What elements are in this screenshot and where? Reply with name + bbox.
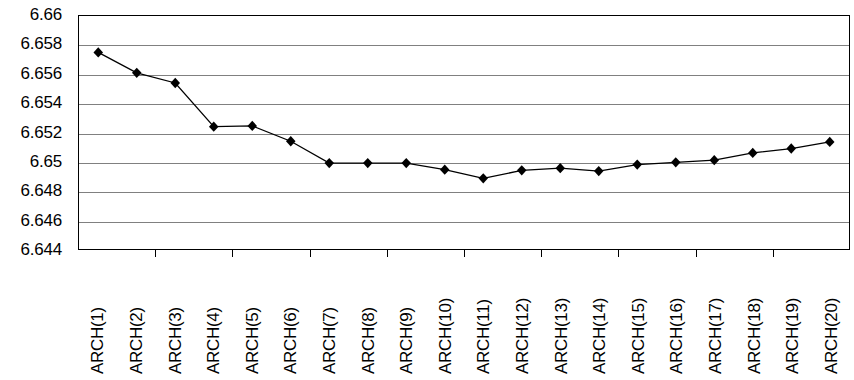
data-point-marker bbox=[748, 148, 758, 158]
x-axis-category-label: ARCH(5) bbox=[244, 262, 262, 374]
x-axis-category-label: ARCH(9) bbox=[398, 262, 416, 374]
data-point-marker bbox=[132, 68, 142, 78]
data-point-marker bbox=[594, 166, 604, 176]
data-point-marker bbox=[555, 163, 565, 173]
x-axis-tick-mark bbox=[773, 250, 774, 257]
x-axis-category-label: ARCH(16) bbox=[668, 262, 686, 374]
x-axis-category-label: ARCH(17) bbox=[707, 262, 725, 374]
data-point-marker bbox=[478, 173, 488, 183]
x-axis-tick-mark bbox=[618, 250, 619, 257]
y-axis-tick-label: 6.646 bbox=[0, 212, 62, 229]
y-axis-tick-label: 6.654 bbox=[0, 94, 62, 111]
data-point-marker bbox=[324, 158, 334, 168]
data-point-marker bbox=[401, 158, 411, 168]
x-axis-tick-mark bbox=[464, 250, 465, 257]
data-point-marker bbox=[440, 164, 450, 174]
x-axis-category-label: ARCH(15) bbox=[630, 262, 648, 374]
y-axis-tick-label: 6.66 bbox=[0, 6, 62, 23]
y-axis-tick-label: 6.648 bbox=[0, 182, 62, 199]
y-axis-tick-label: 6.644 bbox=[0, 241, 62, 258]
x-axis-category-label: ARCH(7) bbox=[321, 262, 339, 374]
x-axis-category-label: ARCH(13) bbox=[553, 262, 571, 374]
x-axis-category-label: ARCH(2) bbox=[128, 262, 146, 374]
x-axis-category-label: ARCH(20) bbox=[823, 262, 841, 374]
line-chart: 6.666.6586.6566.6546.6526.656.6486.6466.… bbox=[0, 0, 854, 380]
x-axis-tick-mark bbox=[541, 250, 542, 257]
data-point-marker bbox=[786, 143, 796, 153]
x-axis-category-label: ARCH(3) bbox=[167, 262, 185, 374]
x-axis-tick-mark bbox=[155, 250, 156, 257]
x-axis-category-label: ARCH(6) bbox=[282, 262, 300, 374]
x-axis-category-label: ARCH(14) bbox=[591, 262, 609, 374]
data-point-marker bbox=[632, 159, 642, 169]
x-axis-category-label: ARCH(18) bbox=[746, 262, 764, 374]
y-axis-tick-label: 6.65 bbox=[0, 153, 62, 170]
x-axis-category-label: ARCH(12) bbox=[514, 262, 532, 374]
x-axis-tick-mark bbox=[696, 250, 697, 257]
data-point-marker bbox=[671, 157, 681, 167]
y-axis-tick-label: 6.656 bbox=[0, 65, 62, 82]
series-arch-line bbox=[79, 16, 849, 249]
y-axis-tick-label: 6.658 bbox=[0, 35, 62, 52]
x-axis-tick-mark bbox=[310, 250, 311, 257]
x-axis-category-label: ARCH(10) bbox=[437, 262, 455, 374]
data-point-marker bbox=[247, 121, 257, 131]
x-axis-category-label: ARCH(11) bbox=[475, 262, 493, 374]
x-axis-category-label: ARCH(4) bbox=[205, 262, 223, 374]
data-point-marker bbox=[709, 155, 719, 165]
y-axis-tick-label: 6.652 bbox=[0, 124, 62, 141]
data-point-marker bbox=[363, 158, 373, 168]
x-axis-category-label: ARCH(8) bbox=[360, 262, 378, 374]
x-axis-tick-mark bbox=[387, 250, 388, 257]
plot-area bbox=[78, 15, 850, 250]
data-point-marker bbox=[286, 136, 296, 146]
data-point-marker bbox=[517, 165, 527, 175]
x-axis-category-label: ARCH(1) bbox=[89, 262, 107, 374]
data-point-marker bbox=[825, 137, 835, 147]
series-line bbox=[98, 52, 830, 178]
x-axis-tick-mark bbox=[232, 250, 233, 257]
data-point-marker bbox=[93, 47, 103, 57]
x-axis-category-label: ARCH(19) bbox=[784, 262, 802, 374]
